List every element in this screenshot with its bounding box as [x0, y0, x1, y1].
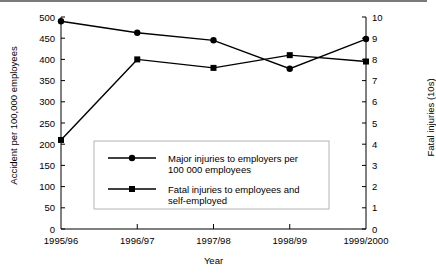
y-tick-label-left: 50	[44, 202, 55, 213]
y-tick-label-right: 4	[372, 139, 377, 150]
y-tick-label-right: 10	[372, 12, 383, 23]
y-tick-label-left: 300	[39, 96, 55, 107]
data-point-circle[interactable]	[134, 29, 140, 35]
x-tick-label: 1996/97	[120, 235, 154, 246]
legend-label-line1-0: Major injuries to employers per	[168, 153, 298, 164]
y-tick-label-left: 350	[39, 75, 55, 86]
legend-label-line2-1: self-employed	[168, 195, 227, 206]
data-point-square[interactable]	[363, 59, 369, 65]
y-tick-label-right: 9	[372, 33, 377, 44]
y-tick-label-left: 200	[39, 139, 55, 150]
y-tick-label-right: 1	[372, 202, 377, 213]
y-tick-label-right: 5	[372, 118, 377, 129]
y-tick-label-left: 100	[39, 181, 55, 192]
series-line-0	[61, 21, 366, 68]
y-tick-label-left: 400	[39, 54, 55, 65]
y-tick-label-right: 6	[372, 96, 377, 107]
y-tick-label-left: 450	[39, 33, 55, 44]
y-tick-label-left: 0	[50, 224, 55, 235]
x-tick-label: 1997/98	[196, 235, 230, 246]
y-tick-label-left: 500	[39, 12, 55, 23]
data-point-square[interactable]	[287, 52, 293, 58]
legend-marker-square	[129, 186, 135, 192]
y-tick-label-right: 7	[372, 75, 377, 86]
data-point-square[interactable]	[58, 137, 64, 143]
x-tick-label: 1998/99	[273, 235, 307, 246]
legend-marker-circle	[129, 155, 135, 161]
y-tick-label-right: 2	[372, 181, 377, 192]
data-point-square[interactable]	[211, 65, 217, 71]
legend-label-line2-0: 100 000 employees	[168, 164, 251, 175]
y-tick-label-right: 8	[372, 54, 377, 65]
data-point-circle[interactable]	[210, 37, 216, 43]
y-tick-label-left: 150	[39, 160, 55, 171]
x-tick-label: 1995/96	[44, 235, 78, 246]
data-point-square[interactable]	[134, 56, 140, 62]
data-point-circle[interactable]	[363, 36, 369, 42]
legend-label-line1-1: Fatal injuries to employees and	[168, 184, 300, 195]
y-tick-label-left: 250	[39, 118, 55, 129]
y-tick-label-right: 3	[372, 160, 377, 171]
y-tick-label-right: 0	[372, 224, 377, 235]
data-point-circle[interactable]	[58, 18, 64, 24]
x-tick-label: 1999/2000	[344, 235, 389, 246]
data-point-circle[interactable]	[287, 66, 293, 72]
